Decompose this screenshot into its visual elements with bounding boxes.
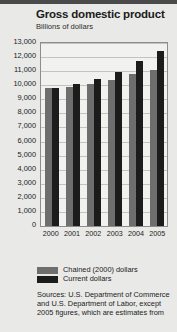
bar-current <box>94 79 101 226</box>
y-axis-tick-label: 11,000 <box>14 66 36 74</box>
x-axis-tick-label: 2001 <box>61 229 82 238</box>
bar-groups <box>41 43 167 226</box>
chart-subtitle: Billions of dollars <box>36 22 176 31</box>
y-axis-tick-label: 9,000 <box>18 94 37 102</box>
bar-current <box>115 72 122 226</box>
bar-chained <box>66 87 73 226</box>
bar-chained <box>108 80 115 226</box>
x-axis-tick-label: 2002 <box>83 229 104 238</box>
y-axis-tick-label: 8,000 <box>18 108 37 116</box>
legend-label: Chained (2000) dollars <box>63 266 138 274</box>
bar-group <box>87 43 101 226</box>
y-axis-tick-label: 2,000 <box>18 193 37 201</box>
y-axis-tick-label: 3,000 <box>18 179 37 187</box>
bar-current <box>52 88 59 226</box>
legend-swatch <box>37 267 58 274</box>
y-axis-tick-label: 0 <box>32 221 36 229</box>
chart-figure: Gross domestic product Billions of dolla… <box>0 0 177 332</box>
bar-chained <box>87 84 94 226</box>
chart-legend: Chained (2000) dollarsCurrent dollars <box>37 266 177 284</box>
bar-group <box>45 43 59 226</box>
chart-title: Gross domestic product <box>36 8 176 20</box>
legend-item: Current dollars <box>37 275 177 283</box>
x-axis-tick-label: 2000 <box>40 229 61 238</box>
y-axis-tick-label: 13,000 <box>13 38 36 46</box>
x-axis-labels: 200020012002200320042005 <box>40 229 168 238</box>
x-axis-tick-label: 2005 <box>147 229 168 238</box>
y-axis-tick-label: 6,000 <box>18 137 37 145</box>
bar-group <box>66 43 80 226</box>
chart-header: Gross domestic product Billions of dolla… <box>36 8 176 31</box>
legend-label: Current dollars <box>63 275 111 283</box>
bar-chained <box>129 74 136 226</box>
source-note: Sources: U.S. Department of Commerce and… <box>37 290 173 318</box>
y-axis-tick-label: 7,000 <box>18 122 37 130</box>
plot-area <box>40 42 168 227</box>
y-axis-tick-label: 10,000 <box>13 80 36 88</box>
legend-swatch <box>37 276 58 283</box>
bar-current <box>136 61 143 226</box>
bar-current <box>157 51 164 226</box>
bar-group <box>108 43 122 226</box>
y-axis-tick-label: 12,000 <box>13 52 36 60</box>
x-axis-tick-label: 2004 <box>125 229 146 238</box>
top-rule <box>0 0 177 4</box>
y-axis-tick-label: 5,000 <box>18 151 37 159</box>
bar-chained <box>45 88 52 226</box>
y-axis-tick-label: 1,000 <box>18 207 37 215</box>
x-axis-tick-label: 2003 <box>104 229 125 238</box>
bar-chained <box>150 70 157 226</box>
y-axis-tick-label: 4,000 <box>18 165 37 173</box>
legend-item: Chained (2000) dollars <box>37 266 177 274</box>
bar-group <box>129 43 143 226</box>
bar-group <box>150 43 164 226</box>
bar-current <box>73 84 80 226</box>
